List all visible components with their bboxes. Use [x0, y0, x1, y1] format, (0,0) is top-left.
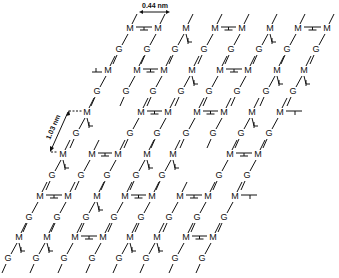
residue-g: G: [289, 86, 296, 96]
residue-g: G: [220, 212, 227, 222]
chain-segment: [129, 76, 135, 87]
residue-m: M: [164, 107, 172, 117]
residue-g: G: [142, 253, 149, 263]
residue-m: M: [248, 107, 256, 117]
residue-g: G: [283, 44, 290, 54]
chain-segment: [108, 223, 112, 232]
residue-g: G: [182, 128, 189, 138]
chain-segment: [169, 264, 173, 273]
residue-g: G: [82, 212, 89, 222]
chain-segment: [95, 243, 101, 254]
chain-segment: [30, 264, 34, 273]
chain-segment: [269, 76, 275, 87]
chain-segment: [80, 223, 84, 232]
residue-m: M: [83, 107, 91, 117]
residue-m: M: [220, 107, 228, 117]
chain-segment: [319, 34, 325, 45]
residue-m: M: [193, 107, 201, 117]
residue-g: G: [53, 212, 60, 222]
residue-g: G: [243, 170, 250, 180]
chain-segment: [184, 76, 190, 87]
residue-g: G: [227, 44, 234, 54]
residue-m: M: [182, 23, 190, 33]
chain-segment: [89, 202, 95, 213]
chain-segment: [262, 34, 268, 45]
residue-g: G: [158, 170, 165, 180]
chain-segment: [231, 97, 235, 106]
residue-g: G: [32, 253, 39, 263]
chain-segment: [149, 243, 155, 254]
residue-g: G: [209, 128, 216, 138]
residue-m: M: [153, 232, 161, 242]
dimension-annotations: 0.44 nm 1.03 nm: [45, 2, 170, 152]
residue-m: M: [244, 65, 252, 75]
residue-m: M: [43, 232, 51, 242]
residue-g: G: [115, 253, 122, 263]
alginate-lattice-diagram: MGMGMGMGMGMGMGMGMGMGMGMGMGMGMGMGMGMGMGMG…: [0, 0, 339, 278]
residue-m: M: [188, 65, 196, 75]
residue-m: M: [36, 191, 44, 201]
chain-segment: [140, 264, 144, 273]
residue-g: G: [25, 212, 32, 222]
chain-segment: [32, 202, 38, 213]
residue-m: M: [93, 191, 101, 201]
residue-g: G: [126, 128, 133, 138]
chain-segment: [11, 243, 17, 254]
residue-g: G: [143, 44, 150, 54]
chain-segment: [287, 97, 291, 106]
chain-segment: [144, 202, 150, 213]
residue-m: M: [182, 232, 190, 242]
chain-segment: [113, 264, 117, 273]
residue-m: M: [226, 149, 234, 159]
residue-g: G: [149, 86, 156, 96]
residue-g: G: [60, 253, 67, 263]
residue-m: M: [104, 65, 112, 75]
residue-g: G: [265, 128, 272, 138]
chain-segment: [79, 118, 85, 129]
chain-segment: [191, 223, 195, 232]
residue-g: G: [215, 170, 222, 180]
residue-g: G: [77, 170, 84, 180]
chain-segment: [101, 181, 105, 190]
chain-segment: [227, 202, 233, 213]
chain-segment: [150, 34, 156, 45]
chain-segment: [218, 223, 222, 232]
chain-segment: [207, 139, 211, 148]
residue-m: M: [238, 23, 246, 33]
residue-g: G: [137, 212, 144, 222]
chain-segment: [139, 160, 145, 171]
residue-g: G: [255, 44, 262, 54]
chain-segment: [156, 76, 162, 87]
chain-segment: [141, 55, 145, 64]
residue-g: G: [48, 170, 55, 180]
residue-m: M: [114, 149, 122, 159]
chain-segment: [55, 160, 61, 171]
residue-g: G: [153, 128, 160, 138]
chain-segment: [58, 264, 62, 273]
residue-m: M: [126, 23, 134, 33]
residue-g: G: [198, 253, 205, 263]
residue-g: G: [312, 44, 319, 54]
chain-segment: [216, 118, 222, 129]
chain-segment: [151, 139, 155, 148]
residue-m: M: [204, 191, 212, 201]
spacing-label-vertical: 1.03 nm: [45, 114, 62, 141]
chain-segment: [156, 181, 160, 190]
residue-m: M: [323, 23, 331, 33]
residue-g: G: [237, 128, 244, 138]
chain-segment: [260, 97, 264, 106]
residue-m: M: [15, 232, 23, 242]
chain-segment: [207, 34, 213, 45]
chain-segment: [165, 160, 171, 171]
chain-segment: [86, 264, 90, 273]
chain-segment: [250, 160, 256, 171]
residue-m: M: [99, 232, 107, 242]
residue-m: M: [154, 23, 162, 33]
residue-m: M: [133, 65, 141, 75]
chain-segment: [122, 34, 128, 45]
residue-g: G: [93, 86, 100, 96]
residue-g: G: [233, 86, 240, 96]
chain-segment: [110, 160, 116, 171]
residue-g: G: [103, 170, 110, 180]
chain-segment: [117, 202, 123, 213]
